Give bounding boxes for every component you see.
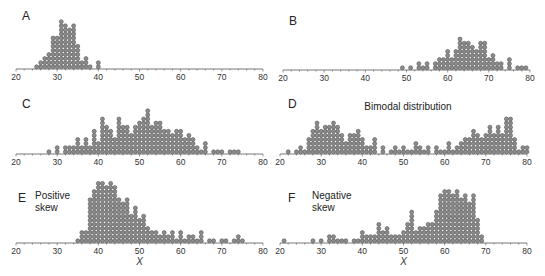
data-dot	[466, 45, 470, 49]
data-dot	[439, 210, 443, 214]
data-dot	[117, 198, 121, 202]
data-dot	[105, 194, 109, 198]
data-dot	[397, 235, 401, 239]
data-dot	[315, 142, 319, 146]
data-dot	[88, 65, 92, 69]
data-dot	[109, 214, 113, 218]
data-dot	[480, 146, 484, 150]
data-dot	[455, 235, 459, 239]
data-dot	[369, 239, 373, 243]
data-dot	[471, 138, 475, 142]
data-dot	[162, 142, 166, 146]
x-tick-label: 30	[316, 157, 326, 167]
data-dot	[100, 142, 104, 146]
data-dot	[455, 198, 459, 202]
data-dot	[146, 231, 150, 235]
data-dot	[68, 28, 72, 32]
data-dot	[348, 138, 352, 142]
data-dot	[150, 125, 154, 129]
data-dot	[105, 133, 109, 137]
data-dot	[96, 235, 100, 239]
data-dot	[447, 239, 451, 243]
data-dot	[463, 231, 467, 235]
data-dot	[51, 65, 55, 69]
data-dot	[142, 235, 146, 239]
data-dot	[179, 138, 183, 142]
data-dot	[470, 45, 474, 49]
data-dot	[525, 150, 529, 154]
data-dot	[467, 239, 471, 243]
data-dot	[138, 235, 142, 239]
data-dot	[483, 54, 487, 58]
data-dot	[100, 146, 104, 150]
data-dot	[443, 227, 447, 231]
data-dot	[72, 57, 76, 61]
data-dot	[443, 222, 447, 226]
x-tick-label: 60	[176, 246, 186, 256]
data-dot	[113, 210, 117, 214]
data-dot	[100, 181, 104, 185]
data-dot	[467, 210, 471, 214]
data-dot	[117, 214, 121, 218]
data-dot	[332, 121, 336, 125]
data-dot	[462, 54, 466, 58]
data-dot	[434, 227, 438, 231]
data-dot	[422, 150, 426, 154]
data-dot	[356, 142, 360, 146]
data-dot	[369, 150, 373, 154]
data-dot	[88, 146, 92, 150]
data-dot	[117, 202, 121, 206]
data-dot	[220, 150, 224, 154]
x-tick-label: 60	[440, 157, 450, 167]
data-dot	[476, 146, 480, 150]
data-dot	[179, 133, 183, 137]
data-dot	[84, 235, 88, 239]
data-dot	[92, 133, 96, 137]
data-dot	[138, 222, 142, 226]
data-dot	[364, 235, 368, 239]
data-dot	[418, 227, 422, 231]
data-dot	[311, 129, 315, 133]
data-dot	[55, 150, 59, 154]
data-dot	[447, 235, 451, 239]
data-dot	[402, 235, 406, 239]
data-dot	[471, 235, 475, 239]
data-dot	[113, 194, 117, 198]
data-dot	[418, 235, 422, 239]
data-dot	[146, 133, 150, 137]
data-dot	[455, 150, 459, 154]
data-dot	[142, 231, 146, 235]
data-dot	[129, 227, 133, 231]
data-dot	[179, 150, 183, 154]
data-dot	[142, 125, 146, 129]
data-dot	[492, 146, 496, 150]
skew-annotation: skew	[35, 202, 59, 213]
data-dot	[303, 150, 307, 154]
data-dot	[92, 222, 96, 226]
data-dot	[109, 210, 113, 214]
data-dot	[100, 194, 104, 198]
data-dot	[319, 146, 323, 150]
panel-a: 20304050607080A	[11, 9, 268, 82]
data-dot	[471, 146, 475, 150]
data-dot	[459, 202, 463, 206]
data-dot	[373, 142, 377, 146]
panel-title: Bimodal distribution	[364, 101, 451, 112]
data-dot	[100, 117, 104, 121]
data-dot	[451, 218, 455, 222]
data-dot	[88, 235, 92, 239]
data-dot	[443, 214, 447, 218]
x-tick-label: 20	[275, 157, 285, 167]
data-dot	[162, 150, 166, 154]
data-dot	[385, 235, 389, 239]
data-dot	[352, 146, 356, 150]
data-dot	[125, 138, 129, 142]
data-dot	[175, 129, 179, 133]
data-dot	[187, 142, 191, 146]
data-dot	[142, 218, 146, 222]
data-dot	[146, 150, 150, 154]
data-dot	[509, 129, 513, 133]
data-dot	[170, 235, 174, 239]
data-dot	[146, 227, 150, 231]
data-dot	[446, 62, 450, 66]
